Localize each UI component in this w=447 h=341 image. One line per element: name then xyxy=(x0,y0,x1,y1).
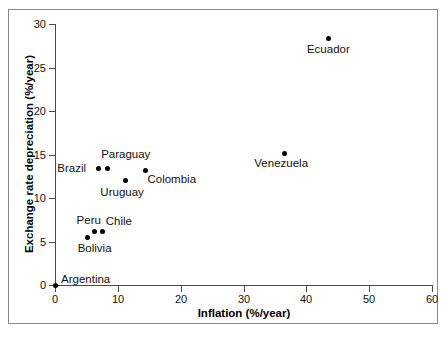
point-label-uruguay: Uruguay xyxy=(100,186,143,198)
data-point-argentina[interactable] xyxy=(53,283,58,288)
scatter-plot-figure: 0510152025300102030405060ArgentinaBolivi… xyxy=(0,0,447,341)
point-label-bolivia: Bolivia xyxy=(78,242,112,254)
data-point-paraguay[interactable] xyxy=(105,166,110,171)
x-axis-tick xyxy=(181,286,182,292)
point-label-paraguay: Paraguay xyxy=(101,148,150,160)
x-axis-tick xyxy=(118,286,119,292)
point-label-brazil: Brazil xyxy=(57,162,86,174)
x-axis-tick-label: 60 xyxy=(419,294,445,305)
y-axis-tick xyxy=(49,198,55,199)
data-point-colombia[interactable] xyxy=(143,168,148,173)
point-label-venezuela: Venezuela xyxy=(254,157,308,169)
point-label-argentina: Argentina xyxy=(61,273,110,285)
data-point-uruguay[interactable] xyxy=(123,178,128,183)
x-axis-tick-label: 50 xyxy=(356,294,382,305)
x-axis-tick-label: 0 xyxy=(42,294,68,305)
x-axis-tick xyxy=(306,286,307,292)
x-axis-tick-label: 40 xyxy=(293,294,319,305)
x-axis-tick xyxy=(432,286,433,292)
y-axis-title: Exchange rate depreciation (%/year) xyxy=(23,29,35,279)
x-axis-title: Inflation (%/year) xyxy=(55,307,433,319)
y-axis-line xyxy=(55,24,56,286)
point-label-ecuador: Ecuador xyxy=(307,43,350,55)
x-axis-tick xyxy=(369,286,370,292)
data-point-chile[interactable] xyxy=(100,229,105,234)
point-label-colombia: Colombia xyxy=(147,173,196,185)
y-axis-tick xyxy=(49,68,55,69)
y-axis-tick-label: 0 xyxy=(22,280,46,291)
y-axis-tick xyxy=(49,242,55,243)
point-label-chile: Chile xyxy=(106,215,132,227)
y-axis-tick xyxy=(49,155,55,156)
data-point-venezuela[interactable] xyxy=(282,151,287,156)
y-axis-tick xyxy=(49,24,55,25)
data-point-bolivia[interactable] xyxy=(85,235,90,240)
y-axis-tick xyxy=(49,111,55,112)
x-axis-tick-label: 30 xyxy=(231,294,257,305)
x-axis-tick-label: 20 xyxy=(168,294,194,305)
x-axis-tick xyxy=(244,286,245,292)
x-axis-tick-label: 10 xyxy=(105,294,131,305)
point-label-peru: Peru xyxy=(77,214,101,226)
data-point-brazil[interactable] xyxy=(96,166,101,171)
